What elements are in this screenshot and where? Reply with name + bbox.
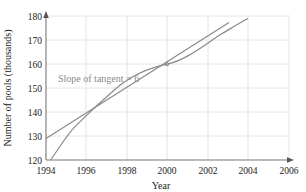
y-axis-title: Number of pools (thousands) — [2, 30, 14, 147]
x-tick-1998: 1998 — [118, 166, 137, 176]
y-axis-tick-labels: 180 170 160 150 140 130 120 — [28, 12, 43, 166]
x-tick-2000: 2000 — [158, 166, 177, 176]
y-axis-arrow-icon — [43, 11, 49, 18]
x-axis-arrow-icon — [287, 157, 294, 163]
grid-lines — [46, 16, 290, 160]
x-tick-1996: 1996 — [77, 166, 96, 176]
x-tick-2004: 2004 — [239, 166, 258, 176]
x-axis-title: Year — [152, 180, 171, 191]
x-tick-1994: 1994 — [37, 166, 56, 176]
y-tick-180: 180 — [28, 12, 43, 22]
chart-page: 180 170 160 150 140 130 120 1994 1996 19… — [0, 0, 306, 192]
y-tick-130: 130 — [28, 132, 43, 142]
pools-vs-year-chart: 180 170 160 150 140 130 120 1994 1996 19… — [0, 0, 306, 192]
y-tick-140: 140 — [28, 108, 43, 118]
y-tick-170: 170 — [28, 36, 43, 46]
axes — [43, 11, 294, 163]
x-tick-2002: 2002 — [199, 166, 218, 176]
x-tick-2006: 2006 — [280, 166, 299, 176]
y-tick-150: 150 — [28, 84, 43, 94]
y-tick-120: 120 — [28, 156, 43, 166]
slope-of-tangent-annotation: Slope of tangent = 6 — [58, 73, 139, 84]
y-tick-160: 160 — [28, 60, 43, 70]
x-axis-tick-labels: 1994 1996 1998 2000 2002 2004 2006 — [37, 166, 299, 176]
